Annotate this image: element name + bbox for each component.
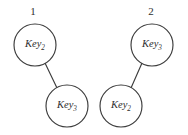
diagram-2: Key3 Key2 2 [100, 5, 173, 127]
edge-d2-n1-to-d2-n2 [131, 63, 142, 88]
edge-d1-n1-to-d1-n2 [45, 63, 57, 88]
figure-canvas: Key2 Key3 1 Key3 Key2 2 [0, 0, 188, 135]
key-graph-figure: Key2 Key3 1 Key3 Key2 2 [0, 0, 188, 135]
diagram-1: Key2 Key3 1 [14, 5, 88, 127]
diagram-caption-1: 1 [30, 5, 36, 17]
diagram-caption-2: 2 [148, 5, 154, 17]
